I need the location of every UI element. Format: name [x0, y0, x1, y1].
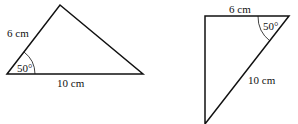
triangle-right-shape [205, 16, 289, 124]
side-label-10cm-left: 10 cm [57, 77, 85, 89]
angle-label-left: 50° [17, 62, 32, 74]
diagram-canvas: 6 cm 10 cm 50° 6 cm 10 cm 50° [0, 0, 298, 124]
side-label-6cm-left: 6 cm [7, 27, 29, 39]
angle-label-right: 50° [263, 20, 278, 32]
triangle-right: 6 cm 10 cm 50° [205, 3, 289, 124]
side-label-10cm-right: 10 cm [248, 74, 276, 86]
side-label-6cm-right: 6 cm [229, 3, 251, 15]
triangle-left: 6 cm 10 cm 50° [7, 5, 143, 89]
